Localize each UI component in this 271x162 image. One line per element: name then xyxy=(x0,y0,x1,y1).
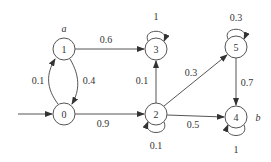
edge-label-4-4: 1 xyxy=(234,144,239,155)
node-label-3: 3 xyxy=(154,44,159,55)
edge-label-0-2: 0.9 xyxy=(97,118,110,129)
edge-label-5-5: 0.3 xyxy=(230,12,243,23)
edge-label-1-0: 0.4 xyxy=(83,75,96,86)
edge-2-4 xyxy=(167,115,224,117)
edge-label-3-3: 1 xyxy=(154,11,159,22)
node-label-1: 1 xyxy=(62,44,67,55)
edge-label-2-3: 0.1 xyxy=(136,75,149,86)
edge-1-0 xyxy=(70,59,78,104)
edge-label-1-3: 0.6 xyxy=(100,34,113,45)
edge-label-2-2: 0.1 xyxy=(150,140,163,151)
edge-2-5 xyxy=(164,55,227,106)
edge-0-1 xyxy=(49,59,58,104)
tag-b: b xyxy=(256,112,261,123)
edge-label-2-4: 0.5 xyxy=(187,119,200,130)
node-label-5: 5 xyxy=(234,42,239,53)
edge-label-5-4: 0.7 xyxy=(241,77,254,88)
node-label-4: 4 xyxy=(234,112,239,123)
edge-label-0-1: 0.1 xyxy=(32,75,45,86)
state-diagram: 1 0 3 2 5 4 a b 0.1 0.4 0.6 0.9 0.1 0.3 … xyxy=(0,0,271,162)
tag-a: a xyxy=(62,23,67,34)
node-label-0: 0 xyxy=(62,109,67,120)
node-label-2: 2 xyxy=(154,109,159,120)
edge-label-2-5: 0.3 xyxy=(185,67,198,78)
